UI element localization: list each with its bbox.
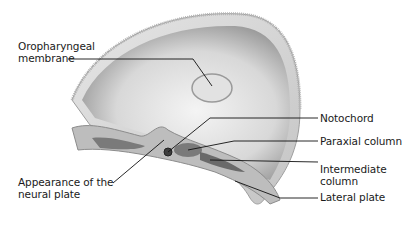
label-lateral-plate: Lateral plate (320, 191, 385, 203)
oropharyngeal-membrane (192, 74, 232, 102)
label-line: Appearance of the (18, 176, 113, 188)
label-notochord: Notochord (320, 112, 374, 124)
label-line: column (320, 175, 387, 187)
label-line: Lateral plate (320, 191, 385, 203)
label-line: Intermediate (320, 163, 387, 175)
label-oropharyngeal-membrane: Oropharyngeal membrane (18, 40, 95, 64)
label-intermediate-column: Intermediate column (320, 163, 387, 187)
label-paraxial-column: Paraxial column (320, 135, 402, 147)
label-line: Notochord (320, 112, 374, 124)
label-line: Paraxial column (320, 135, 402, 147)
label-line: membrane (18, 52, 95, 64)
label-line: neural plate (18, 188, 113, 200)
embryo-diagram: Oropharyngeal membrane Notochord Paraxia… (0, 0, 408, 226)
label-line: Oropharyngeal (18, 40, 95, 52)
label-neural-plate: Appearance of the neural plate (18, 176, 113, 200)
